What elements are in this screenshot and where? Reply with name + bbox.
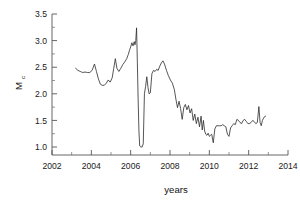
y-tick-label: 3.0 bbox=[35, 36, 47, 46]
x-tick-label: 2014 bbox=[278, 161, 297, 171]
y-tick-label: 1.0 bbox=[35, 142, 47, 152]
y-tick-label: 2.5 bbox=[35, 62, 47, 72]
line-chart-svg: 2002200420062008201020122014 1.01.52.02.… bbox=[0, 0, 300, 200]
x-tick-label: 2010 bbox=[200, 161, 219, 171]
x-tick-label: 2006 bbox=[121, 161, 140, 171]
x-tick-label: 2002 bbox=[42, 161, 61, 171]
y-axis-label-subscript: c bbox=[19, 76, 26, 79]
y-tick-label: 1.5 bbox=[35, 116, 47, 126]
y-axis-label-group: M c bbox=[13, 76, 26, 90]
chart-figure: 2002200420062008201020122014 1.01.52.02.… bbox=[0, 0, 300, 200]
y-tick-label: 3.5 bbox=[35, 9, 47, 19]
data-series-line bbox=[76, 28, 266, 147]
x-tick-label: 2004 bbox=[82, 161, 101, 171]
y-axis-label: M bbox=[13, 82, 24, 90]
x-tick-label: 2012 bbox=[239, 161, 258, 171]
y-axis-tick-labels: 1.01.52.02.53.03.5 bbox=[35, 9, 47, 152]
axes-group bbox=[52, 14, 288, 155]
x-axis-ticks bbox=[52, 150, 288, 155]
y-tick-label: 2.0 bbox=[35, 89, 47, 99]
x-axis-tick-labels: 2002200420062008201020122014 bbox=[42, 161, 297, 171]
y-axis-ticks bbox=[52, 14, 57, 147]
x-tick-label: 2008 bbox=[160, 161, 179, 171]
x-axis-label: years bbox=[164, 184, 188, 195]
